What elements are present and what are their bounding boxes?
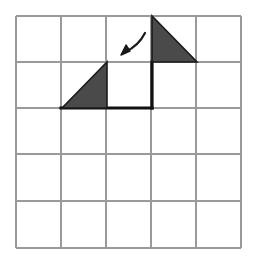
figure-background — [0, 0, 256, 259]
figure-canvas — [0, 0, 256, 259]
figure-root — [0, 0, 256, 259]
